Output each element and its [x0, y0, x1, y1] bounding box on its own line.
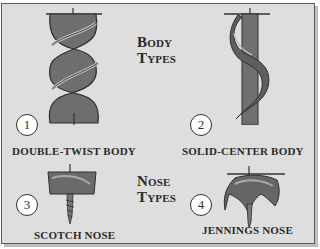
body-types-heading-line-1: Body	[137, 34, 176, 50]
item-number-badge-2: 2	[190, 114, 212, 136]
label-jennings-nose: JENNINGS NOSE	[202, 224, 293, 236]
scotch-nose-bit-icon	[44, 164, 104, 234]
label-double-twist-body: DOUBLE-TWIST BODY	[12, 145, 136, 157]
item-number-badge-1: 1	[16, 114, 38, 136]
item-number-badge-3: 3	[16, 194, 38, 216]
solid-center-auger-bit-icon	[222, 5, 282, 125]
body-types-heading-line-2: Types	[137, 50, 176, 66]
label-solid-center-body: SOLID-CENTER BODY	[182, 145, 304, 157]
body-types-heading: Body Types	[137, 34, 176, 66]
label-scotch-nose: SCOTCH NOSE	[34, 229, 115, 241]
nose-types-heading: Nose Types	[137, 173, 176, 205]
item-number-badge-4: 4	[190, 194, 212, 216]
nose-types-heading-line-2: Types	[137, 189, 176, 205]
double-twist-auger-bit-icon	[44, 5, 106, 125]
nose-types-heading-line-1: Nose	[137, 173, 176, 189]
figure-canvas: Body Types Nose Types 1 2 3 4 DOUBLE-TWI…	[0, 0, 320, 249]
